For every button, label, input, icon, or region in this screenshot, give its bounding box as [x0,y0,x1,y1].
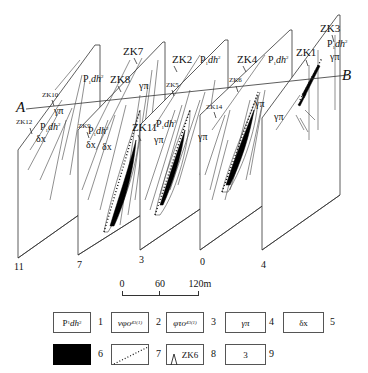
rock-label-delta-x: δx [36,133,46,144]
legend-swatch-ore-body [53,344,91,365]
rock-label-p1dh2: P1dh2 [83,73,104,85]
drillhole-zk7: ZK7 [123,45,144,57]
legend-swatch-gamma-pi: γπ [225,312,266,333]
legend-number: 4 [269,316,274,327]
rock-label-delta-x: δx [102,141,112,152]
legend-number: 7 [156,348,161,359]
dotted-line-icon [112,345,150,366]
rock-label-p1dh2: P1dh2 [156,118,177,130]
drillhole-zk11: ZK11 [132,121,157,133]
legend-number: 9 [269,348,274,359]
rock-label-gamma-pi: γπ [197,131,207,142]
legend-number: 8 [211,348,216,359]
drillhole-zk5: ZK5 [166,81,179,89]
rock-label-p1dh2: P1dh2 [88,125,109,137]
scale-bar-line [122,291,199,296]
legend-swatch-dotted-line [111,344,149,365]
section-line-labels: 11 7 3 0 4 [14,254,266,272]
scale-tick-60: 60 [155,278,165,289]
rock-label-gamma-pi: γπ [138,80,148,91]
rock-label-gamma-pi: γπ [153,134,163,145]
profile-start-label: A [15,99,26,115]
legend-swatch-section-number: 3 [225,344,266,365]
scale-tick-0: 0 [120,278,125,289]
legend-number: 6 [98,348,103,359]
drillhole-zk6: ZK6 [229,76,242,84]
scale-bar: 0 60 120m [118,278,198,300]
drillhole-zk3: ZK3 [320,22,341,34]
legend-swatch-delta-x: δx [283,312,324,333]
legend-swatch-drillhole: ZK6 [166,344,204,365]
legend-swatch-phi-tau-o: φτο43(1) [166,312,204,333]
section-label-3: 3 [139,254,144,265]
drillhole-zk12: ZK12 [16,118,33,126]
profile-end-label: B [342,67,351,83]
section-label-0: 0 [200,256,205,267]
drillhole-zk14: ZK14 [206,103,223,111]
rock-label-p1dh2: P1dh2 [40,121,61,133]
scale-bar-midtick [159,291,160,295]
legend-swatch-p1dh2: P1dh2 [53,312,91,333]
section-label-4: 4 [261,259,266,270]
fence-diagram: A B ZK7 ZK8 ZK2 ZK4 ZK1 ZK3 ZK10 ZK12 ZK… [0,0,368,300]
rock-label-gamma-pi: γπ [53,105,63,116]
drillhole-symbol-icon [169,345,181,366]
section-label-7: 7 [77,259,82,270]
drillhole-zk8: ZK8 [110,73,131,85]
rock-label-delta-x: δx [86,139,96,150]
rock-label-gamma-pi: γπ [329,51,339,62]
scale-tick-120: 120m [189,278,212,289]
rock-label-p1dh2: P1dh2 [200,54,221,66]
legend-number: 5 [330,316,335,327]
section-label-11: 11 [14,261,24,272]
legend-number: 2 [156,316,161,327]
rock-label-gamma-pi: γπ [273,111,283,122]
legend: P1dh2 1 νφο43(1) 2 φτο43(1) 3 γπ 4 δx 5 … [0,306,368,373]
drillhole-zk4: ZK4 [237,53,258,65]
legend-number: 3 [211,316,216,327]
rock-label-p1dh2: P1dh2 [327,38,348,50]
rock-label-p1dh2: P1dh2 [268,54,289,66]
drillhole-zk1: ZK1 [296,46,316,58]
rock-label-gamma-pi: γπ [254,98,264,109]
legend-number: 1 [98,316,103,327]
drillhole-zk10: ZK10 [42,91,59,99]
legend-swatch-nu-phi-o: νφο43(1) [111,312,149,333]
drillhole-zk2: ZK2 [172,53,192,65]
